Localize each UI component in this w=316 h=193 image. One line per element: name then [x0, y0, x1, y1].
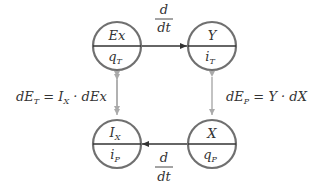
node-ex-top-label: Ex: [108, 28, 126, 43]
diagram-canvas: d dt d dt Ex qT Y iT IX iP X qP: [0, 0, 316, 193]
bottom-derivative-denominator: dt: [157, 169, 171, 184]
right-equation: dEP = Y · dX: [226, 89, 308, 106]
bottom-derivative-edge: d dt: [142, 144, 188, 184]
node-x: X qP: [188, 120, 236, 168]
node-y-top-label: Y: [208, 28, 218, 43]
node-ix: IX iP: [93, 120, 141, 168]
left-equation: dET = IX · dEx: [16, 89, 107, 106]
top-derivative-denominator: dt: [157, 20, 171, 35]
node-ex: Ex qT: [93, 22, 141, 70]
bottom-derivative-numerator: d: [160, 150, 168, 165]
node-x-top-label: X: [206, 126, 217, 141]
top-derivative-numerator: d: [160, 2, 168, 17]
node-y: Y iT: [188, 22, 236, 70]
top-derivative-edge: d dt: [141, 2, 187, 46]
